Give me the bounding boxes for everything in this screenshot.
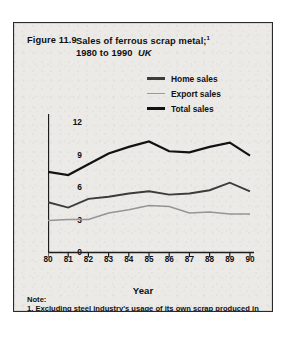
note-heading: Note: xyxy=(27,295,265,304)
x-axis-labels: 8081828384858687888990 xyxy=(48,255,256,269)
x-axis-tick-label: 90 xyxy=(245,255,254,264)
x-axis-tick-label: 85 xyxy=(144,255,153,264)
legend-item-home-sales: Home sales xyxy=(147,71,221,86)
legend-item-export-sales: Export sales xyxy=(147,86,221,101)
note-text: 1. Excluding steel industry's usage of i… xyxy=(27,304,265,312)
x-axis-tick-label: 80 xyxy=(43,255,52,264)
chart-canvas xyxy=(48,108,256,268)
figure-title-text: Sales of ferrous scrap metal; xyxy=(76,36,207,46)
series-line-export-sales xyxy=(48,205,250,220)
x-axis-tick-label: 89 xyxy=(225,255,234,264)
x-axis-tick-label: 83 xyxy=(104,255,113,264)
series-line-home-sales xyxy=(48,183,250,208)
figure-title-region: UK xyxy=(138,48,152,58)
x-axis-tick-label: 84 xyxy=(124,255,133,264)
line-swatch-icon xyxy=(147,93,165,95)
series-line-total-sales xyxy=(48,142,250,176)
x-axis-tick-label: 87 xyxy=(185,255,194,264)
x-axis-tick-label: 81 xyxy=(64,255,73,264)
figure-title-period: 1980 to 1990 xyxy=(76,48,133,58)
figure-number: Figure 11.9 xyxy=(27,35,77,45)
line-swatch-icon xyxy=(147,77,165,79)
legend-label: Home sales xyxy=(171,74,218,84)
footnote-marker: 1 xyxy=(207,35,210,41)
x-axis-tick-label: 88 xyxy=(205,255,214,264)
figure-title-line2: 1980 to 1990 UK xyxy=(76,48,152,58)
figure-title-line1: Sales of ferrous scrap metal;1 xyxy=(76,35,210,46)
figure-panel: Figure 11.9 Sales of ferrous scrap metal… xyxy=(13,22,273,312)
x-axis-tick-label: 86 xyxy=(165,255,174,264)
x-axis-tick-label: 82 xyxy=(84,255,93,264)
legend-label: Export sales xyxy=(171,89,221,99)
plot-area: 036912 8081828384858687888990 xyxy=(48,108,256,268)
figure-note: Note: 1. Excluding steel industry's usag… xyxy=(27,295,265,312)
